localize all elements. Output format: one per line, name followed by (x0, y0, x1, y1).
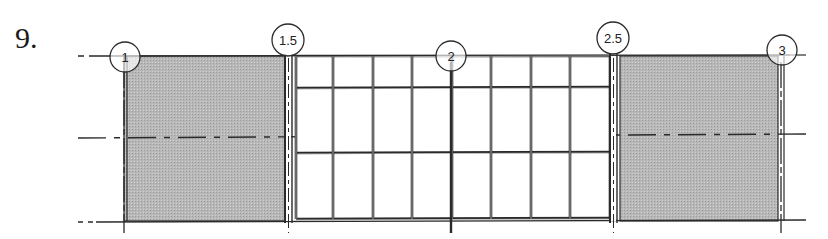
grid-bubble-label: 2 (447, 49, 454, 64)
grid-bubble-2: 2 (436, 41, 466, 71)
grid-bubble-label: 2.5 (604, 31, 622, 46)
grid-bubble-2-5: 2.5 (597, 22, 629, 54)
grid-bubble-label: 1.5 (279, 33, 297, 48)
grid-bubble-3: 3 (767, 35, 797, 65)
grid-bubble-label: 3 (778, 43, 785, 58)
grid-bubble-label: 1 (121, 50, 128, 65)
grid-bubble-1-5: 1.5 (272, 24, 304, 56)
elevation-drawing: 11.522.53 (0, 0, 828, 239)
right-wall-panel (620, 56, 778, 221)
grid-bubble-1: 1 (110, 42, 140, 72)
curtain-wall (296, 56, 610, 220)
left-wall-panel (124, 56, 285, 221)
